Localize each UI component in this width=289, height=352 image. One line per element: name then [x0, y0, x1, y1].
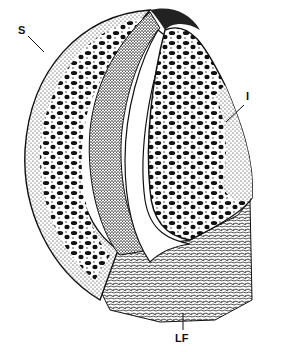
label-i: I	[246, 90, 249, 102]
label-lf: LF	[175, 332, 188, 344]
anatomical-drawing	[0, 0, 289, 352]
label-s: S	[18, 24, 25, 36]
leader-line-s	[28, 36, 44, 52]
